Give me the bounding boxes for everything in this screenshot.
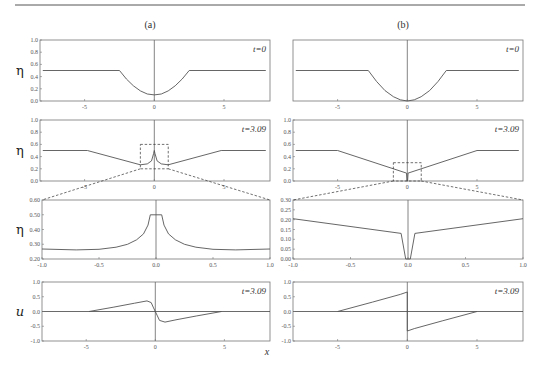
y-tick-label: 0.15 bbox=[281, 227, 292, 233]
plot-a2: -5050.00.20.40.60.81.0ηt=3.09 bbox=[16, 117, 270, 190]
plot-b3: -1.0-0.50.00.51.00.000.050.100.150.200.2… bbox=[281, 197, 527, 268]
y-tick-label: 0.0 bbox=[31, 98, 39, 104]
y-tick-label: 0.50 bbox=[30, 212, 41, 218]
x-tick-label: 5 bbox=[476, 104, 479, 110]
y-tick-label: 0.10 bbox=[281, 236, 292, 242]
y-tick-label: 0.25 bbox=[281, 207, 292, 213]
y-tick-label: 0.4 bbox=[31, 154, 39, 160]
time-annotation: t=0 bbox=[253, 44, 267, 54]
y-tick-label: 0.2 bbox=[31, 166, 39, 172]
plots-group: -5050.00.20.40.60.81.0ηt=0-505t=0-5050.0… bbox=[16, 37, 527, 350]
y-axis-label: u bbox=[16, 304, 24, 319]
x-tick-label: 1.0 bbox=[266, 262, 274, 268]
plot-b4: -505-1.0-0.50.00.51.0t=3.09 bbox=[282, 279, 524, 350]
x-tick-label: -5 bbox=[335, 184, 340, 190]
y-tick-label: 0.60 bbox=[30, 197, 41, 203]
y-tick-label: -1.0 bbox=[31, 338, 41, 344]
plot-a4: -505-1.0-0.50.00.51.0ut=3.09 bbox=[16, 279, 270, 350]
y-tick-label: 0.6 bbox=[284, 141, 292, 147]
x-tick-label: 0.0 bbox=[404, 262, 412, 268]
x-tick-label: 5 bbox=[223, 344, 226, 350]
y-tick-label: 1.0 bbox=[31, 117, 39, 123]
y-tick-label: -1.0 bbox=[282, 338, 292, 344]
plot-b2: -5050.00.20.40.60.81.0t=3.09 bbox=[284, 117, 524, 190]
x-tick-label: -5 bbox=[335, 104, 340, 110]
x-axis-label: x bbox=[264, 346, 270, 357]
figure-canvas: (a) (b) x -5050.00.20.40.60.81.0ηt=0-505… bbox=[0, 0, 539, 369]
x-tick-label: -0.5 bbox=[346, 262, 356, 268]
y-tick-label: 0.6 bbox=[31, 61, 39, 67]
x-tick-label: -5 bbox=[335, 344, 340, 350]
y-axis-label: η bbox=[16, 222, 24, 237]
y-tick-label: 0.5 bbox=[33, 294, 41, 300]
panel-label-a: (a) bbox=[144, 19, 155, 31]
x-tick-label: -0.5 bbox=[94, 262, 104, 268]
x-tick-label: 0.5 bbox=[209, 262, 217, 268]
x-tick-label: 5 bbox=[476, 184, 479, 190]
x-tick-label: 0 bbox=[153, 104, 156, 110]
panel-label-b: (b) bbox=[397, 19, 409, 31]
y-tick-label: 0.40 bbox=[30, 227, 41, 233]
plot-a1: -5050.00.20.40.60.81.0ηt=0 bbox=[16, 37, 270, 110]
x-tick-label: 0 bbox=[406, 184, 409, 190]
y-axis-label: η bbox=[16, 63, 24, 78]
x-tick-label: 5 bbox=[476, 344, 479, 350]
x-tick-label: 0.5 bbox=[462, 262, 470, 268]
y-tick-label: -0.5 bbox=[31, 323, 41, 329]
x-tick-label: -5 bbox=[84, 344, 89, 350]
y-tick-label: 0.5 bbox=[284, 294, 292, 300]
plot-b1: -505t=0 bbox=[293, 40, 523, 110]
x-tick-label: 1.0 bbox=[519, 262, 527, 268]
y-tick-label: 1.0 bbox=[284, 117, 292, 123]
zoom-connector-left bbox=[42, 169, 140, 200]
y-tick-label: 0.20 bbox=[281, 217, 292, 223]
time-annotation: t=3.09 bbox=[242, 286, 267, 296]
y-tick-label: 0.8 bbox=[31, 49, 39, 55]
y-tick-label: 0.0 bbox=[284, 309, 292, 315]
y-tick-label: 0.0 bbox=[33, 309, 41, 315]
time-annotation: t=3.09 bbox=[495, 286, 520, 296]
time-annotation: t=3.09 bbox=[495, 124, 520, 134]
y-tick-label: 0.4 bbox=[31, 74, 39, 80]
y-tick-label: -0.5 bbox=[282, 323, 292, 329]
x-tick-label: 5 bbox=[223, 104, 226, 110]
zoom-connector-right bbox=[421, 181, 523, 200]
x-tick-label: 0 bbox=[153, 184, 156, 190]
y-tick-label: 0.8 bbox=[284, 129, 292, 135]
x-tick-label: 0 bbox=[406, 344, 409, 350]
zoom-connector-left bbox=[293, 181, 393, 200]
y-tick-label: 0.4 bbox=[284, 154, 292, 160]
time-annotation: t=3.09 bbox=[242, 124, 267, 134]
x-tick-label: 0.0 bbox=[152, 262, 160, 268]
time-annotation: t=0 bbox=[506, 44, 520, 54]
y-tick-label: 0.20 bbox=[30, 256, 41, 262]
y-tick-label: 0.00 bbox=[281, 256, 292, 262]
y-tick-label: 0.05 bbox=[281, 246, 292, 252]
y-tick-label: 0.30 bbox=[30, 241, 41, 247]
y-tick-label: 1.0 bbox=[33, 279, 41, 285]
plot-a3: -1.0-0.50.00.51.00.200.300.400.500.60η bbox=[16, 197, 274, 268]
y-tick-label: 0.0 bbox=[31, 178, 39, 184]
x-tick-label: -5 bbox=[82, 104, 87, 110]
zoom-connector-right bbox=[168, 169, 270, 200]
x-tick-label: -1.0 bbox=[37, 262, 47, 268]
y-tick-label: 0.0 bbox=[284, 178, 292, 184]
x-tick-label: -1.0 bbox=[288, 262, 298, 268]
x-tick-label: 5 bbox=[223, 184, 226, 190]
y-tick-label: 0.8 bbox=[31, 129, 39, 135]
x-tick-label: 0 bbox=[154, 344, 157, 350]
y-tick-label: 0.2 bbox=[31, 86, 39, 92]
y-tick-label: 0.6 bbox=[31, 141, 39, 147]
x-tick-label: 0 bbox=[406, 104, 409, 110]
y-tick-label: 1.0 bbox=[284, 279, 292, 285]
y-tick-label: 1.0 bbox=[31, 37, 39, 43]
y-tick-label: 0.2 bbox=[284, 166, 292, 172]
y-axis-label: η bbox=[16, 143, 24, 158]
y-tick-label: 0.30 bbox=[281, 197, 292, 203]
zoom-connectors bbox=[42, 169, 523, 200]
